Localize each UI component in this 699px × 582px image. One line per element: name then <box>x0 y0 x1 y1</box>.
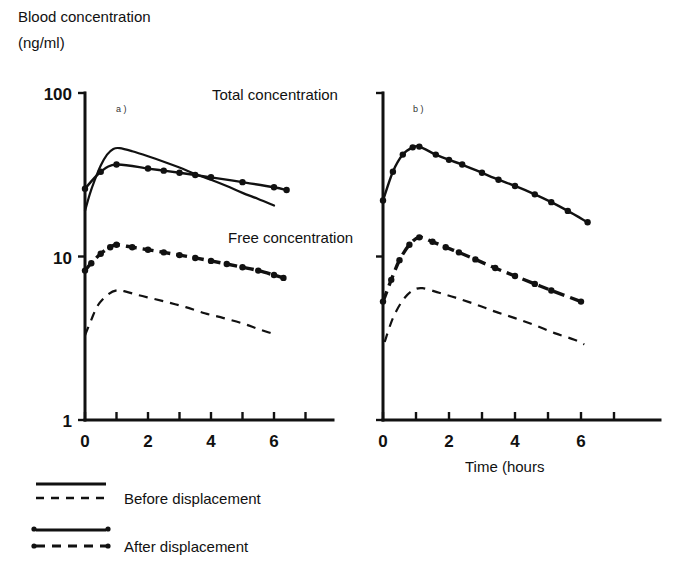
x-axis-title: Time (hours <box>465 458 544 475</box>
annotation-free-concentration: Free concentration <box>228 229 353 246</box>
data-point-a-2-5 <box>129 244 135 250</box>
data-point-b-0-9 <box>495 176 501 182</box>
data-point-b-1-10 <box>512 273 518 279</box>
data-point-b-1-13 <box>578 298 584 304</box>
annotation-total-concentration: Total concentration <box>212 86 338 103</box>
panel-b: 0246 b ) <box>376 93 660 451</box>
data-point-b-0-1 <box>390 169 396 175</box>
data-point-a-1-7 <box>208 174 214 180</box>
panel-a-label: a ) <box>116 104 127 114</box>
y-tick-label-1: 1 <box>63 412 72 431</box>
data-point-b-0-7 <box>459 161 465 167</box>
data-point-a-1-9 <box>271 184 277 190</box>
legend-marker-dashed-end <box>105 543 110 548</box>
data-point-a-2-2 <box>98 251 104 257</box>
panel-a-y-tick-labels: 100101 <box>44 85 72 431</box>
series-line-a-0 <box>85 148 274 211</box>
y-tick-label-100: 100 <box>44 85 72 104</box>
x-tick-label-2: 2 <box>143 432 152 451</box>
data-point-a-1-4 <box>161 167 167 173</box>
panel-b-x-tick-labels: 0246 <box>378 432 585 451</box>
x-tick-label-4: 4 <box>206 432 216 451</box>
legend-label-before-displacement: Before displacement <box>124 490 262 507</box>
data-point-b-0-0 <box>380 197 386 203</box>
x-tick-label-0: 0 <box>378 432 387 451</box>
data-point-b-0-3 <box>410 144 416 150</box>
data-point-b-0-10 <box>512 183 518 189</box>
data-point-a-2-13 <box>255 267 261 273</box>
data-point-b-0-5 <box>433 151 439 157</box>
data-point-b-1-5 <box>429 239 435 245</box>
data-point-b-1-0 <box>380 298 386 304</box>
series-line-a-2 <box>85 245 283 278</box>
data-point-b-1-9 <box>492 265 498 271</box>
data-point-a-2-1 <box>88 260 94 266</box>
data-point-a-1-10 <box>283 187 289 193</box>
data-point-b-1-7 <box>456 249 462 255</box>
data-point-a-2-8 <box>176 252 182 258</box>
panel-a-x-tick-labels: 0246 <box>80 432 278 451</box>
data-point-b-1-1 <box>388 277 394 283</box>
data-point-b-0-12 <box>548 199 554 205</box>
data-point-a-1-3 <box>145 165 151 171</box>
data-point-a-2-9 <box>192 255 198 261</box>
data-point-b-0-6 <box>446 157 452 163</box>
data-point-a-1-5 <box>176 170 182 176</box>
x-tick-label-2: 2 <box>444 432 453 451</box>
legend-item-after-displacement: After displacement <box>31 526 249 555</box>
series-line-a-1 <box>85 165 287 191</box>
blood-concentration-figure: Blood concentration (ng/ml) 100101 0246 … <box>0 0 699 582</box>
data-point-a-2-6 <box>145 247 151 253</box>
data-point-b-0-13 <box>565 208 571 214</box>
data-point-a-1-2 <box>113 161 119 167</box>
y-axis-title-line2: (ng/ml) <box>18 34 65 51</box>
legend-marker-solid-end <box>105 526 110 531</box>
x-tick-label-4: 4 <box>510 432 520 451</box>
legend-item-before-displacement: Before displacement <box>36 484 262 507</box>
data-point-b-0-2 <box>400 151 406 157</box>
panel-b-series <box>380 143 591 344</box>
data-point-a-2-4 <box>113 242 119 248</box>
data-point-b-1-4 <box>416 234 422 240</box>
x-tick-label-0: 0 <box>80 432 89 451</box>
y-axis-title-line1: Blood concentration <box>18 8 151 25</box>
panel-a: 100101 0246 a ) <box>44 85 333 451</box>
data-point-a-2-3 <box>107 244 113 250</box>
data-point-a-2-14 <box>271 272 277 278</box>
data-point-a-1-0 <box>82 185 88 191</box>
y-tick-label-10: 10 <box>53 249 72 268</box>
data-point-a-2-12 <box>239 264 245 270</box>
data-point-b-1-2 <box>396 257 402 263</box>
data-point-a-1-8 <box>239 179 245 185</box>
data-point-b-1-8 <box>472 256 478 262</box>
data-point-b-1-6 <box>443 244 449 250</box>
data-point-b-1-11 <box>532 281 538 287</box>
series-line-a-3 <box>85 290 271 335</box>
data-point-b-0-14 <box>584 219 590 225</box>
data-point-a-2-7 <box>161 249 167 255</box>
legend: Before displacement After displacement <box>31 484 261 555</box>
x-tick-label-6: 6 <box>576 432 585 451</box>
data-point-a-2-10 <box>208 258 214 264</box>
series-line-b-2 <box>385 288 585 344</box>
data-point-b-1-3 <box>406 242 412 248</box>
panel-b-label: b ) <box>413 104 424 114</box>
data-point-b-0-4 <box>416 143 422 149</box>
data-point-a-1-1 <box>98 169 104 175</box>
x-tick-label-6: 6 <box>269 432 278 451</box>
legend-marker-dashed-start <box>31 543 36 548</box>
data-point-a-2-11 <box>224 261 230 267</box>
data-point-a-1-6 <box>192 172 198 178</box>
data-point-a-2-15 <box>280 275 286 281</box>
series-line-b-0 <box>383 146 588 222</box>
legend-marker-solid-start <box>31 526 36 531</box>
data-point-b-0-11 <box>532 191 538 197</box>
data-point-a-2-0 <box>82 267 88 273</box>
legend-label-after-displacement: After displacement <box>124 538 249 555</box>
data-point-b-1-12 <box>548 287 554 293</box>
data-point-b-0-8 <box>479 170 485 176</box>
